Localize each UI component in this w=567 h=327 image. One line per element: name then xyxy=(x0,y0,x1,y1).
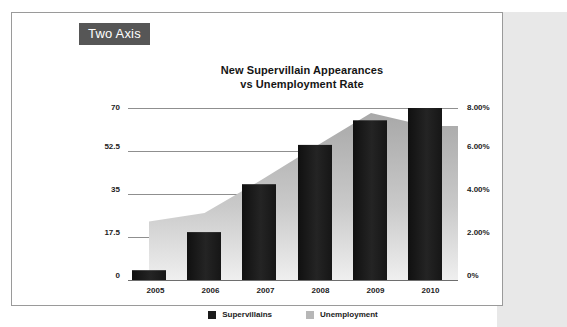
x-axis-label-2007: 2007 xyxy=(238,285,293,299)
bar-2005 xyxy=(132,270,166,280)
right-axis-tick-4: 4.00% xyxy=(467,185,490,195)
chart-title-line-2: vs Unemployment Rate xyxy=(132,77,472,91)
two-axis-badge: Two Axis xyxy=(79,23,150,45)
chart-title: New Supervillain Appearances vs Unemploy… xyxy=(132,63,472,91)
x-axis-label-2010: 2010 xyxy=(403,285,458,299)
page-root: New Supervillain Appearances vs Unemploy… xyxy=(0,0,567,327)
left-axis-tick-70: 70 xyxy=(111,103,120,113)
legend-item-supervillains: Supervillains xyxy=(208,310,272,320)
legend-item-unemployment: Unemployment xyxy=(306,310,378,320)
legend-label-supervillains: Supervillains xyxy=(222,310,272,320)
bar-2007 xyxy=(242,184,276,280)
chart-card: New Supervillain Appearances vs Unemploy… xyxy=(11,12,503,306)
bar-2006 xyxy=(187,232,221,280)
left-axis-tick-35: 35 xyxy=(111,185,120,195)
legend-swatch-supervillains-icon xyxy=(208,311,216,319)
legend-label-unemployment: Unemployment xyxy=(320,310,378,320)
left-axis-tick-17_5: 17.5 xyxy=(104,228,120,238)
right-axis: 0% 2.00% 4.00% 6.00% 8.00% xyxy=(467,101,519,287)
right-axis-tick-6: 6.00% xyxy=(467,142,490,152)
bar-2008 xyxy=(298,145,332,280)
right-axis-tick-0: 0% xyxy=(467,271,479,281)
left-axis: 0 17.5 35 52.5 70 xyxy=(78,101,120,287)
x-axis-label-2006: 2006 xyxy=(183,285,238,299)
plot-area xyxy=(128,108,458,280)
left-axis-tick-52_5: 52.5 xyxy=(104,142,120,152)
right-side-band-notch xyxy=(497,0,567,12)
x-axis-labels: 2005 2006 2007 2008 2009 2010 xyxy=(128,285,458,299)
x-axis-label-2005: 2005 xyxy=(128,285,183,299)
right-axis-tick-2: 2.00% xyxy=(467,228,490,238)
chart-legend: Supervillains Unemployment xyxy=(128,308,458,322)
x-axis-label-2008: 2008 xyxy=(293,285,348,299)
legend-swatch-unemployment-icon xyxy=(306,311,314,319)
right-axis-tick-8: 8.00% xyxy=(467,103,490,113)
bar-2009 xyxy=(353,120,387,280)
chart-title-line-1: New Supervillain Appearances xyxy=(132,63,472,77)
x-axis-label-2009: 2009 xyxy=(348,285,403,299)
bar-2010 xyxy=(408,108,442,280)
left-axis-tick-0: 0 xyxy=(116,271,120,281)
chart-canvas xyxy=(128,108,458,284)
